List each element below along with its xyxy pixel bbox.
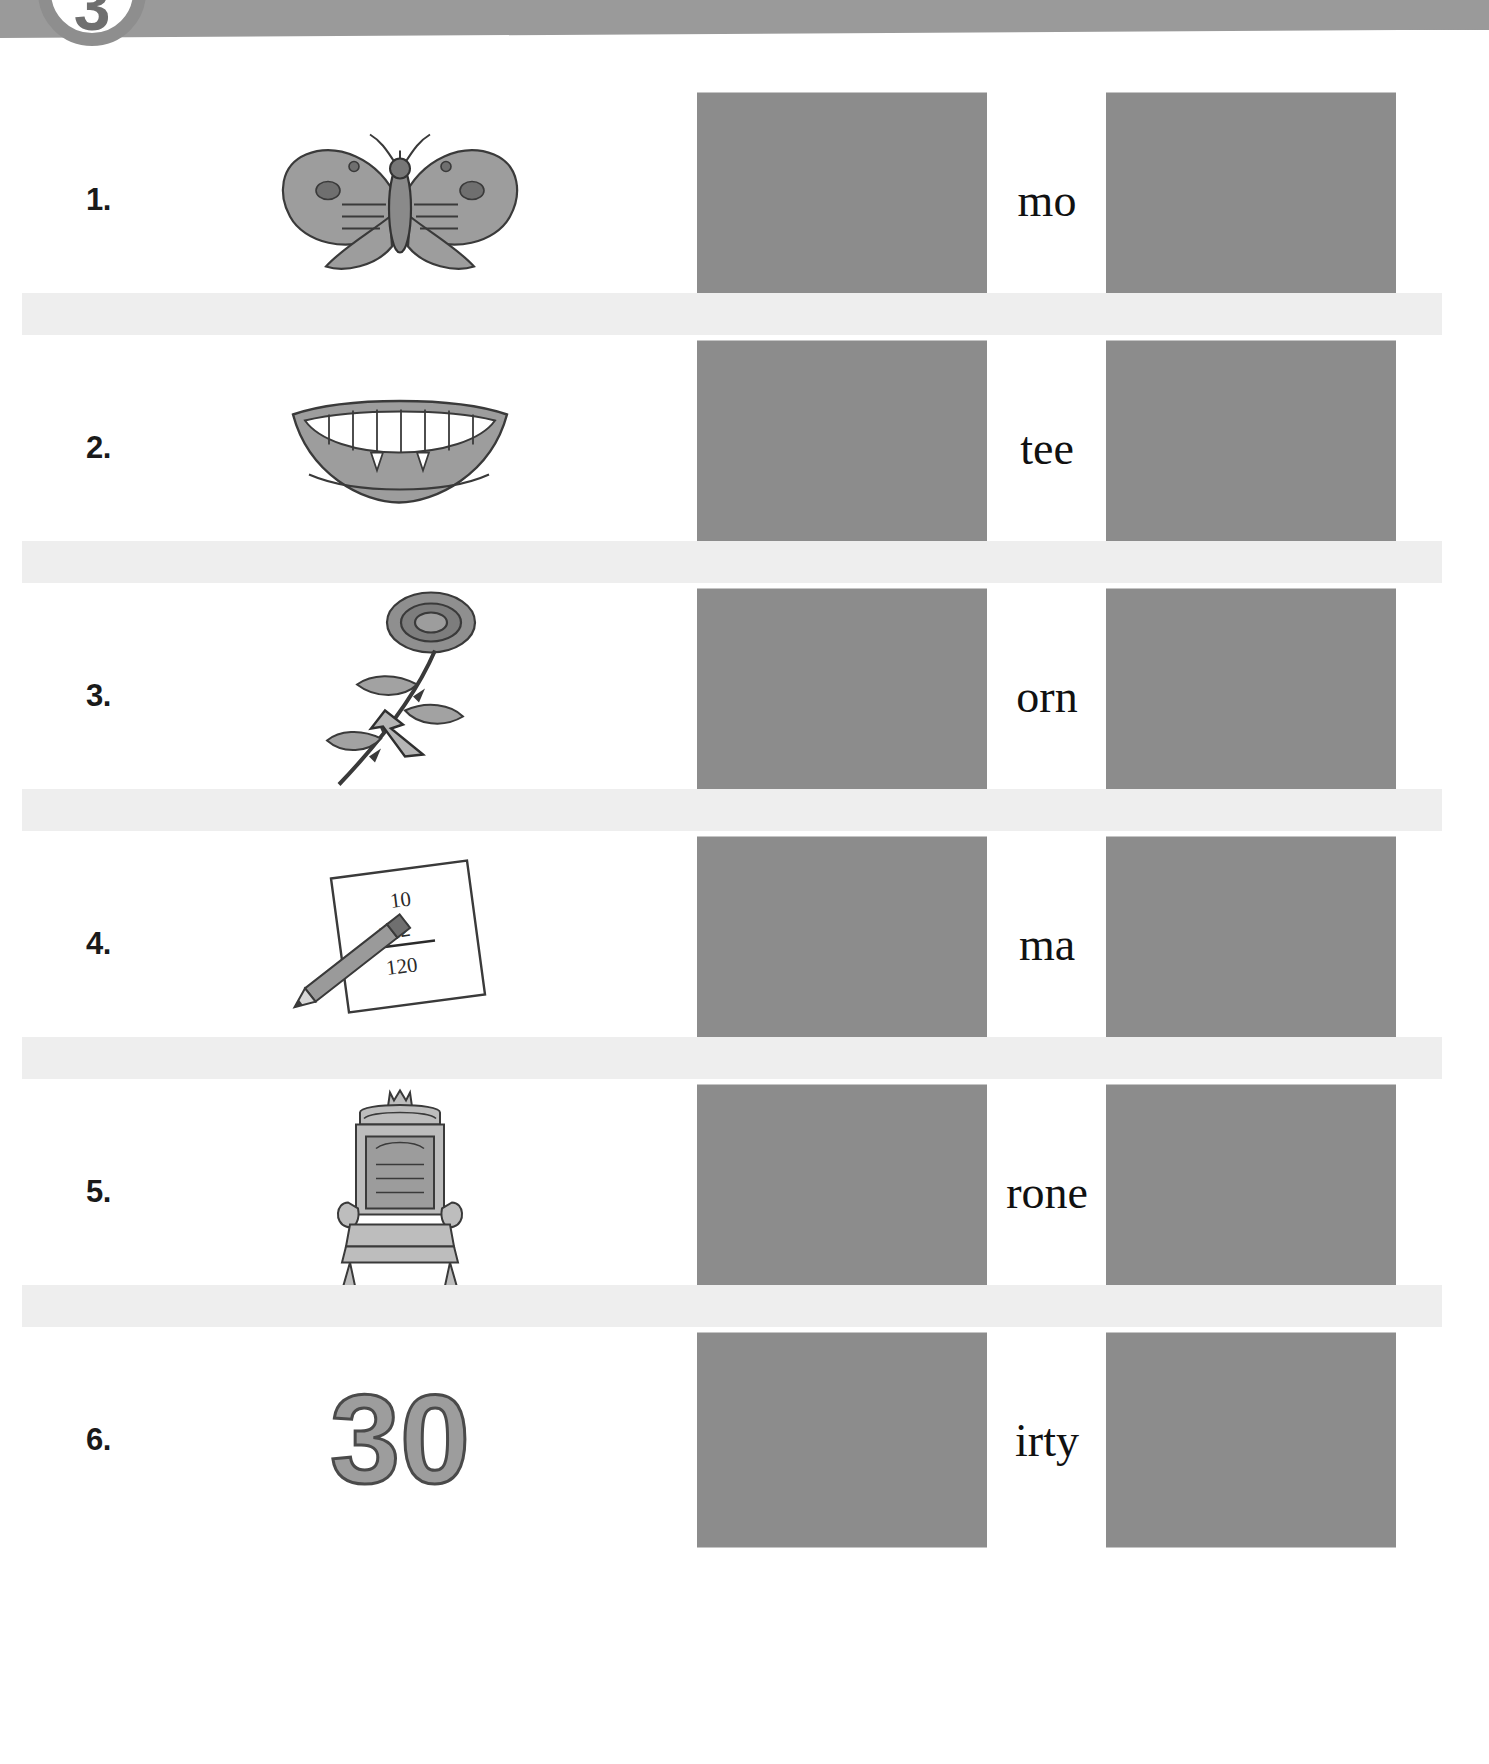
picture-number-thirty-illustration: 30 — [250, 1333, 550, 1548]
math-line-1: 10 — [389, 886, 413, 912]
picture-mouth-teeth-illustration — [250, 341, 550, 556]
worksheet-page: 3 1. — [0, 0, 1489, 1764]
answer-box-suffix[interactable] — [1106, 1333, 1396, 1548]
worksheet-row: 5. — [0, 1068, 1489, 1316]
picture-rose-thorn-illustration — [250, 589, 550, 804]
word-fragment: irty — [987, 1414, 1107, 1467]
answer-box-suffix[interactable] — [1106, 589, 1396, 804]
answer-box-prefix[interactable] — [697, 341, 987, 556]
page-number-text: 3 — [74, 0, 111, 33]
answer-box-suffix[interactable] — [1106, 837, 1396, 1052]
answer-box-suffix[interactable] — [1106, 341, 1396, 556]
header-banner-slope — [0, 24, 1489, 38]
row-number: 4. — [86, 926, 111, 962]
answer-box-suffix[interactable] — [1106, 93, 1396, 308]
row-number: 2. — [86, 430, 111, 466]
row-number: 5. — [86, 1174, 111, 1210]
picture-math-paper-pencil-illustration: 10 ×12 120 — [250, 837, 550, 1052]
worksheet-row: 3. — [0, 572, 1489, 820]
math-paper-pencil-icon: 10 ×12 120 — [285, 844, 515, 1044]
answer-box-prefix[interactable] — [697, 1085, 987, 1300]
picture-moth-illustration — [250, 93, 550, 308]
word-fragment: mo — [987, 174, 1107, 227]
answer-box-suffix[interactable] — [1106, 1085, 1396, 1300]
row-number: 3. — [86, 678, 111, 714]
number-thirty-icon: 30 — [270, 1370, 530, 1510]
moth-icon — [270, 120, 530, 280]
answer-box-prefix[interactable] — [697, 589, 987, 804]
word-fragment: rone — [987, 1166, 1107, 1219]
math-line-3: 120 — [385, 952, 419, 980]
answer-box-prefix[interactable] — [697, 1333, 987, 1548]
answer-box-prefix[interactable] — [697, 837, 987, 1052]
worksheet-row: 6. 30 irty — [0, 1316, 1489, 1564]
page-number-badge: 3 — [38, 0, 146, 46]
worksheet-row: 2. tee — [0, 324, 1489, 572]
worksheet-row: 4. 10 ×12 120 ma — [0, 820, 1489, 1068]
worksheet-row: 1. — [0, 76, 1489, 324]
mouth-teeth-icon — [275, 378, 525, 518]
thirty-numeral: 30 — [330, 1370, 470, 1509]
rose-thorn-icon — [285, 589, 515, 804]
word-fragment: tee — [987, 422, 1107, 475]
picture-throne-chair-illustration — [250, 1085, 550, 1300]
throne-chair-icon — [320, 1085, 480, 1300]
row-number: 6. — [86, 1422, 111, 1458]
answer-box-prefix[interactable] — [697, 93, 987, 308]
word-fragment: ma — [987, 918, 1107, 971]
row-number: 1. — [86, 182, 111, 218]
word-fragment: orn — [987, 670, 1107, 723]
